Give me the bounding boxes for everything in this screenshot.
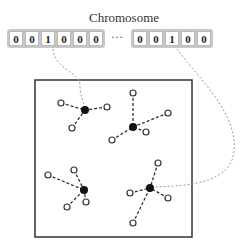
cluster-top-right xyxy=(109,90,171,143)
data-point xyxy=(155,160,161,166)
data-point xyxy=(165,195,171,201)
data-point xyxy=(165,110,171,116)
cluster-diagram xyxy=(0,0,248,252)
cluster-bottom-right xyxy=(127,160,171,226)
cluster-centroid xyxy=(146,184,154,192)
data-point xyxy=(130,90,136,96)
data-point xyxy=(64,204,70,210)
gene-to-centroid-link-right xyxy=(154,49,234,187)
data-point xyxy=(83,199,89,205)
cluster-edge xyxy=(133,188,150,223)
cluster-bottom-left xyxy=(45,167,89,210)
data-point xyxy=(45,172,51,178)
data-point xyxy=(109,137,115,143)
cluster-top-left xyxy=(58,100,110,131)
gene-to-centroid-link-left xyxy=(53,49,84,107)
cluster-edge xyxy=(48,175,84,190)
data-point xyxy=(71,167,77,173)
cluster-centroid xyxy=(129,123,137,131)
data-point xyxy=(104,104,110,110)
data-point xyxy=(127,190,133,196)
data-point xyxy=(143,129,149,135)
cluster-centroid xyxy=(81,106,89,114)
data-point xyxy=(130,220,136,226)
data-point xyxy=(69,125,75,131)
data-point xyxy=(58,100,64,106)
cluster-centroid xyxy=(80,186,88,194)
cluster-edge xyxy=(133,113,168,127)
